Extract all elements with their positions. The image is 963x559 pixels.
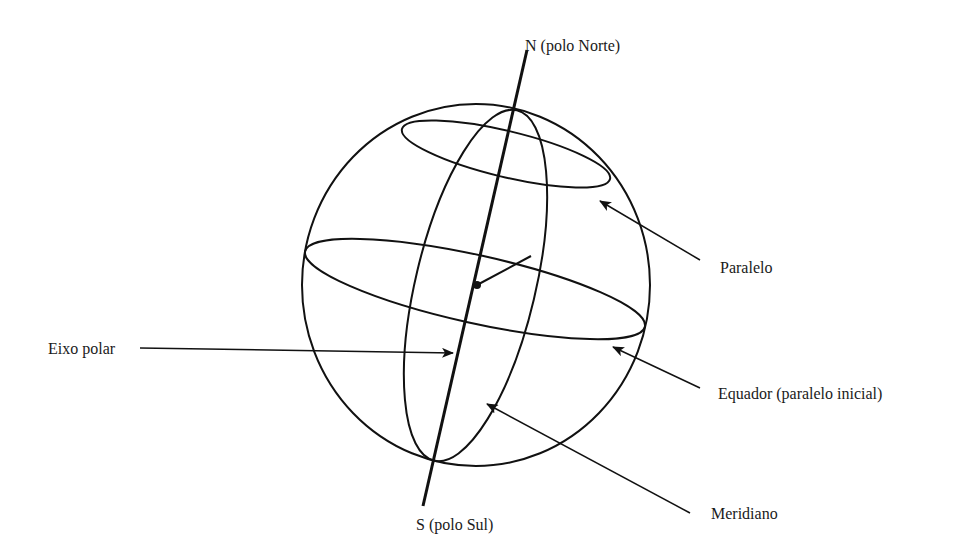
equator-ellipse — [298, 218, 652, 360]
equator-label: Equador (paralelo inicial) — [718, 386, 882, 402]
polar-axis-label: Eixo polar — [48, 341, 115, 357]
globe-drawing — [0, 0, 963, 559]
equator-arrow — [613, 347, 700, 388]
center-point — [473, 281, 481, 289]
parallel-ellipse — [397, 107, 616, 202]
north-pole-label: N (polo Norte) — [525, 38, 620, 54]
axis-arrow — [140, 348, 453, 353]
parallel-label: Paralelo — [720, 260, 772, 276]
parallel-arrow — [600, 201, 700, 260]
south-pole-label: S (polo Sul) — [416, 517, 493, 533]
meridian-arrow — [487, 404, 690, 513]
globe-diagram: N (polo Norte) S (polo Sul) Paralelo Equ… — [0, 0, 963, 559]
meridian-label: Meridiano — [711, 506, 778, 522]
